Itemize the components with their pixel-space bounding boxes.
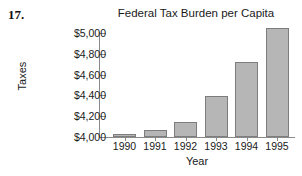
y-axis-tick-label: $4,400 bbox=[48, 90, 106, 100]
y-axis-tick-label-row: $4,800 bbox=[36, 49, 106, 59]
y-axis-tick-label: $4,600 bbox=[48, 70, 106, 80]
y-axis-tick-label-row: $4,400 bbox=[36, 90, 106, 100]
x-axis-label: 1993 bbox=[200, 140, 232, 152]
x-axis-title: Year bbox=[99, 155, 295, 167]
bar bbox=[235, 62, 258, 137]
x-axis-label: 1992 bbox=[170, 140, 202, 152]
y-axis-tick-label-row: $4,000 bbox=[36, 132, 106, 142]
x-axis-label: 1990 bbox=[109, 140, 141, 152]
y-axis-tick-label: $4,000 bbox=[48, 132, 106, 142]
bar bbox=[205, 96, 228, 137]
y-axis-tick-label: $4,800 bbox=[48, 49, 106, 59]
y-axis-tick-label: $4,200 bbox=[48, 111, 106, 121]
y-axis-tick-label-row: $4,600 bbox=[36, 70, 106, 80]
bar-chart-plot: Taxes Year $4,000$4,200$4,400$4,600$4,80… bbox=[0, 0, 302, 176]
y-axis-tick-label-row: $4,200 bbox=[36, 111, 106, 121]
x-axis-label: 1994 bbox=[231, 140, 263, 152]
x-axis-line bbox=[99, 137, 295, 138]
y-axis-tick-label: $5,000 bbox=[48, 28, 106, 38]
x-axis-label: 1995 bbox=[261, 140, 293, 152]
y-axis-tick-label-row: $5,000 bbox=[36, 28, 106, 38]
bar bbox=[266, 28, 289, 137]
bar bbox=[144, 130, 167, 137]
bar bbox=[174, 122, 197, 137]
x-axis-label: 1991 bbox=[139, 140, 171, 152]
y-axis-title: Taxes bbox=[16, 46, 28, 106]
